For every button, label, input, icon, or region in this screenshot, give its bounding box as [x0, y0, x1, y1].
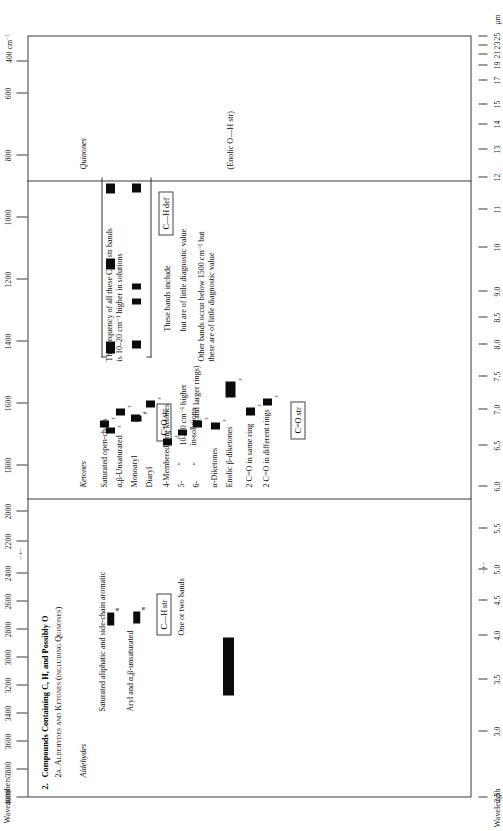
wavelength-tick-label: 12: [492, 173, 501, 181]
band-quinone-enolic-oh-str: [223, 637, 234, 695]
wavelength-tick-label: 7.5: [492, 371, 501, 381]
wavelength-tick-label: 15: [492, 100, 501, 108]
wavelength-tick-label: 5.0: [492, 564, 501, 574]
wavelength-tick: [478, 176, 487, 177]
band-ketone-co-5-ring: [178, 429, 187, 435]
wavelength-tick-label: 7.0: [492, 404, 501, 414]
band-ketone-co-4-ring: [163, 438, 172, 445]
annotation-ch-def-box: C—H def: [158, 191, 173, 235]
row-label-2co-same-ring: 2 C=O in same ring: [245, 423, 254, 487]
wavelength-tick-label: 23: [492, 41, 501, 49]
row-label-sat-aliphatic-line1: Saturated aliphatic and side-chain aroma…: [98, 571, 107, 711]
wavelength-tick: [478, 730, 487, 731]
band-intensity-label: s: [125, 405, 131, 407]
band-intensity-label: m: [113, 607, 119, 611]
group-label-aldehydes: Aldehydes: [78, 743, 87, 777]
annotation-ch-str-box: C—H str: [156, 593, 171, 635]
wavelength-tick-label: 6.0: [492, 481, 501, 491]
wavelength-tick: [478, 123, 487, 124]
row-label-diaryl: Diaryl: [145, 466, 154, 487]
band-intensity-label: s: [272, 395, 278, 397]
band-intensity-label: s: [255, 404, 261, 406]
band-ketone-co-monoaryl: [131, 414, 140, 421]
wavelength-tick-label: 17: [492, 76, 501, 84]
wavelength-tick-label: 19: [492, 61, 501, 69]
wavelength-tick-label: 25: [492, 32, 501, 40]
row-label-2co-different-rings: 2 C=O in different rings: [262, 409, 271, 487]
wavelength-tick: [478, 290, 487, 291]
wavelength-tick: [478, 444, 487, 445]
wavelength-tick-label: 13: [492, 145, 501, 153]
wavelength-tick-label: 4.5: [492, 595, 501, 605]
wavelength-tick: [478, 678, 487, 679]
band-ketone-co-6-ring: [193, 420, 202, 427]
band-ketone-co-sat-open-chain: [100, 420, 109, 427]
wavelength-tick-label: 8.0: [492, 339, 501, 349]
row-label-alpha-diketones: α-Diketones: [210, 447, 219, 487]
wavelength-tick: [478, 796, 487, 797]
wavelength-axis-title: Wavelength: [492, 788, 501, 827]
annotation-ketone-note-2: Other bands occur below 1500 cm⁻¹ but th…: [196, 231, 217, 361]
subsection-title: 2a. Aldehydes and Ketones (including Qui…: [53, 606, 62, 777]
wavelength-tick-label: 4.0: [492, 630, 501, 640]
band-aldehyde-ch-def-sat-3: [106, 183, 115, 193]
wavelength-tick: [478, 343, 487, 344]
annotation-ch-str-text: C—H str: [159, 599, 168, 629]
wavelength-tick-label: 10: [492, 243, 501, 251]
wavelength-tick-label: 6.5: [492, 440, 501, 450]
wavelength-tick-label: 9.0: [492, 286, 501, 296]
wavelength-tick-label: 3.0: [492, 726, 501, 736]
wavelength-tick: [478, 599, 487, 600]
band-intensity-label: s: [109, 417, 115, 419]
row-label-5-ring: 5-: [177, 480, 186, 487]
wavelength-tick: [478, 316, 487, 317]
wavelength-tick-label: 5.5: [492, 523, 501, 533]
group-label-ketones: Ketones: [78, 461, 87, 487]
annotation-ch-str-caption: One or two bands: [176, 578, 186, 635]
wavelength-axis: 2.5 3.0 3.5 4.0 4.5 5.0 5.5 6.0 6.5 7.0 …: [0, 0, 503, 831]
band-aldehyde-ch-str-aryl: [133, 611, 140, 623]
wavelength-tick-label: 8.5: [492, 312, 501, 322]
wavelength-tick: [478, 44, 487, 45]
band-intensity-label: s: [236, 378, 242, 380]
wavelength-tick: [478, 485, 487, 486]
band-aldehyde-ch-def-aryl-1: [132, 340, 141, 348]
wavelength-tick: [478, 53, 487, 54]
row-label-aryl-unsat: Aryl and α,β-unsaturated: [126, 630, 135, 711]
wavelength-tick-label: 3.5: [492, 674, 501, 684]
band-aldehyde-ch-def-aryl-3: [132, 283, 141, 289]
band-intensity-label: s: [140, 411, 146, 413]
band-quinone-co-same-ring: [246, 407, 255, 415]
band-ketone-co-enolic-b-diketones: [225, 381, 235, 397]
band-aldehyde-ch-str-saturated: [107, 612, 114, 625]
row-label-6-ring: 6-: [192, 480, 201, 487]
wavelength-tick: [478, 103, 487, 104]
wavelength-tick: [478, 527, 487, 528]
annotation-co-str-box-2: C=O str: [290, 401, 305, 439]
annotation-ketone-note-1: The frequency of all these C=O str bands…: [104, 228, 125, 361]
band-intensity-label: s: [220, 419, 226, 421]
wavelength-tick-label: 11: [492, 205, 501, 213]
group-label-quinones: Quinones: [78, 138, 87, 169]
wavelength-tick: [478, 375, 487, 376]
band-quinone-co-different-rings: [263, 398, 272, 405]
annotation-ch-def-text: C—H def: [161, 197, 170, 229]
band-aldehyde-ch-def-aryl-4: [132, 183, 141, 192]
band-ketone-co-alpha-diketones: [211, 422, 220, 429]
wavelength-tick-label: 14: [492, 120, 501, 128]
wavelength-tick: [478, 148, 487, 149]
row-label-sat-open-chain: Saturated open-chain: [100, 418, 109, 487]
chart-page: 4000 3800 3600 3400 3200 3000 2800 2600 …: [0, 0, 503, 831]
band-ketone-co-ab-unsaturated: [116, 408, 125, 415]
row-label-ditto-2: ″: [192, 462, 201, 466]
section-number: 2.: [40, 783, 49, 789]
wavelength-tick: [478, 408, 487, 409]
row-label-enolic-oh-str: (Enolic O—H str): [226, 111, 235, 169]
axis-break-marker-bottom: −+−: [479, 561, 487, 573]
annotation-co-str-text-2: C=O str: [293, 407, 302, 433]
row-label-ditto-4: ″: [192, 436, 201, 440]
row-label-ditto-1: ″: [177, 462, 186, 466]
axis-break-marker-top: −+−: [16, 547, 24, 559]
wavelength-tick: [478, 634, 487, 635]
wavelength-tick-label: 21: [492, 50, 501, 58]
